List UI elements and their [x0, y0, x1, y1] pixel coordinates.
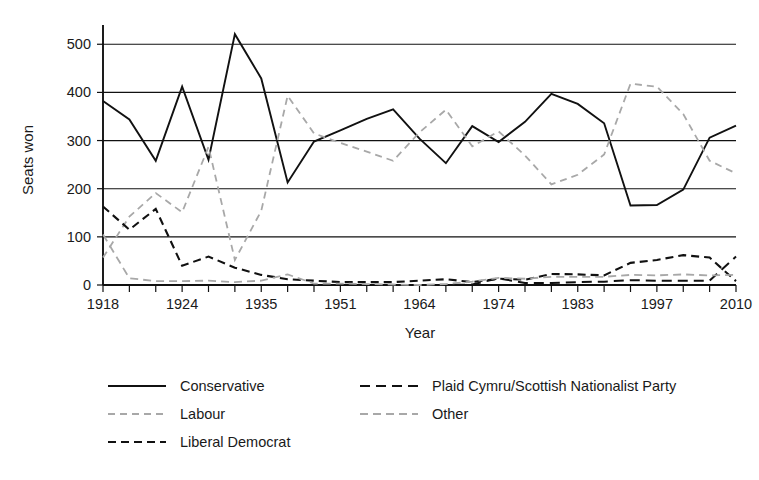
x-tick-label: 1997: [641, 296, 673, 312]
y-tick-label: 500: [67, 36, 91, 52]
y-axis-tick-labels: 0100200300400500: [67, 36, 104, 293]
seats-won-line-chart: 0100200300400500 19181924193519511964197…: [0, 0, 759, 480]
y-axis-label: Seats won: [19, 125, 36, 195]
x-tick-label: 1974: [482, 296, 514, 312]
x-axis-tick-labels: 191819241935195119641974198319972010: [87, 296, 752, 312]
legend-label[interactable]: Plaid Cymru/Scottish Nationalist Party: [432, 378, 677, 394]
legend-label[interactable]: Conservative: [180, 378, 265, 394]
x-tick-label: 1935: [245, 296, 277, 312]
x-axis-tickmarks: [103, 285, 736, 292]
chart-figure: 0100200300400500 19181924193519511964197…: [0, 0, 759, 480]
chart-legend: ConservativeLabourLiberal DemocratPlaid …: [108, 378, 677, 450]
gridlines: [103, 44, 736, 237]
series-lines: [103, 34, 736, 285]
x-tick-label: 1983: [562, 296, 594, 312]
legend-label[interactable]: Other: [432, 406, 468, 422]
y-tick-label: 0: [83, 277, 91, 293]
x-tick-label: 1964: [403, 296, 435, 312]
y-tick-label: 200: [67, 181, 91, 197]
x-tick-label: 2010: [720, 296, 752, 312]
y-tick-label: 400: [67, 84, 91, 100]
y-tick-label: 300: [67, 133, 91, 149]
legend-label[interactable]: Labour: [180, 406, 225, 422]
x-tick-label: 1951: [324, 296, 356, 312]
series-line: [103, 84, 736, 260]
x-tick-label: 1918: [87, 296, 119, 312]
legend-label[interactable]: Liberal Democrat: [180, 434, 290, 450]
series-line: [103, 207, 736, 283]
y-tick-label: 100: [67, 229, 91, 245]
series-line: [103, 34, 736, 205]
x-tick-label: 1924: [166, 296, 198, 312]
x-axis-label: Year: [405, 324, 435, 341]
